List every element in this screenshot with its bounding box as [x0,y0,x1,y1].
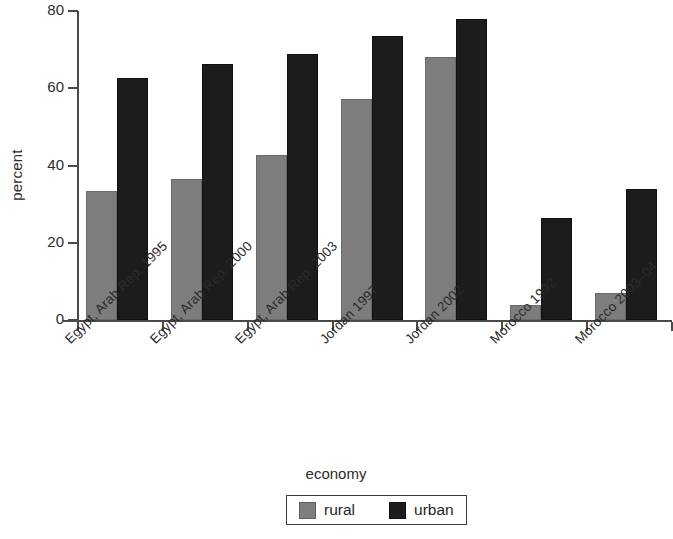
bar-urban [626,189,657,320]
y-axis-tick [68,242,78,244]
y-axis-tick-label: 80 [18,2,64,17]
legend-label-rural: rural [324,501,355,519]
legend: rural urban [286,495,467,525]
bar-urban [456,19,487,320]
bar-urban [372,36,403,320]
bar-urban [541,218,572,320]
y-axis-tick [68,87,78,89]
y-axis-tick-label: 20 [18,234,64,249]
legend-entry-rural[interactable]: rural [299,501,355,519]
x-axis-title: economy [0,465,672,482]
y-axis-tick-label: 0 [18,311,64,326]
y-axis-tick [68,165,78,167]
legend-label-urban: urban [414,501,454,519]
x-axis-line [62,320,672,322]
bar-rural [425,57,456,320]
y-axis-tick-label: 40 [18,157,64,172]
legend-entry-urban[interactable]: urban [389,501,454,519]
rural-swatch-icon [299,502,316,519]
y-axis-tick-label: 60 [18,79,64,94]
urban-swatch-icon [389,502,406,519]
y-axis-tick [68,10,78,12]
y-axis-title: percent [8,120,25,230]
